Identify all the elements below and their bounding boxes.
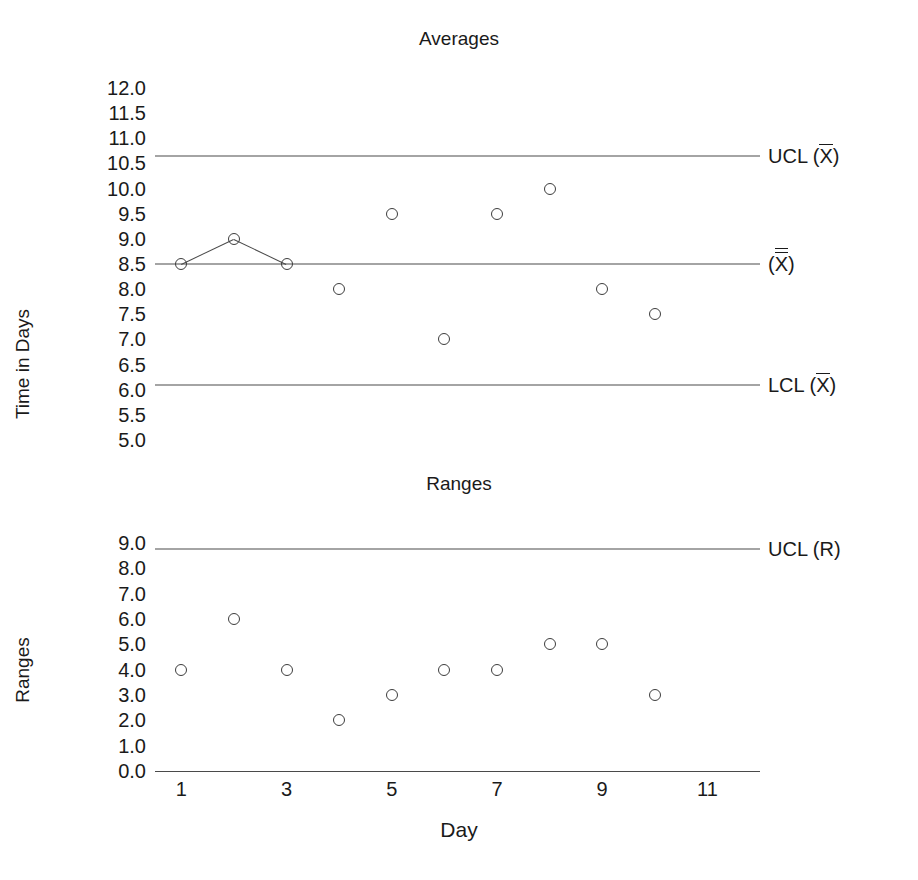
- x-axis-tick-label: 11: [697, 779, 718, 799]
- y-axis-tick-label: 7.5: [76, 304, 146, 324]
- y-axis-tick-label: 8.5: [76, 254, 146, 274]
- y-axis-tick-label: 6.0: [76, 609, 146, 629]
- x-axis-tick-label: 3: [281, 779, 292, 799]
- overbar-symbol: X: [775, 254, 788, 274]
- control-limit-line: [155, 384, 760, 385]
- y-axis-tick-label: 7.0: [76, 329, 146, 349]
- y-axis-tick-label: 1.0: [76, 736, 146, 756]
- y-axis-tick-label: 6.5: [76, 355, 146, 375]
- y-axis-tick-label: 5.5: [76, 405, 146, 425]
- y-axis-tick-label: 4.0: [76, 660, 146, 680]
- y-axis-tick-label: 10.5: [76, 153, 146, 173]
- y-axis-tick-label: 8.0: [76, 558, 146, 578]
- y-axis-tick-label: 12.0: [76, 78, 146, 98]
- y-axis-tick-label: 8.0: [76, 279, 146, 299]
- y-axis-tick-label: 6.0: [76, 380, 146, 400]
- averages-chart-title: Averages: [0, 28, 918, 50]
- data-point-marker[interactable]: [649, 308, 661, 320]
- x-axis-tick-label: 9: [597, 779, 608, 799]
- data-point-marker[interactable]: [544, 638, 556, 650]
- data-point-marker[interactable]: [438, 333, 450, 345]
- data-point-marker[interactable]: [649, 689, 661, 701]
- y-axis-tick-label: 2.0: [76, 710, 146, 730]
- x-axis-tick-label: 5: [386, 779, 397, 799]
- y-axis-tick-label: 3.0: [76, 685, 146, 705]
- control-chart-figure: Averages Time in Days 5.05.56.06.57.07.5…: [0, 0, 918, 880]
- data-connector-line: [181, 239, 234, 265]
- averages-y-axis-title: Time in Days: [11, 284, 35, 444]
- data-point-marker[interactable]: [333, 283, 345, 295]
- ranges-chart-title: Ranges: [0, 473, 918, 495]
- data-point-marker[interactable]: [596, 638, 608, 650]
- y-axis-tick-label: 11.5: [76, 103, 146, 123]
- data-point-marker[interactable]: [175, 258, 187, 270]
- control-limit-label: UCL (R): [768, 539, 841, 559]
- control-limit-line: [155, 264, 760, 265]
- averages-plot-area: 5.05.56.06.57.07.58.08.59.09.510.010.511…: [155, 88, 760, 440]
- y-axis-tick-label: 9.0: [76, 229, 146, 249]
- control-limit-label: (X): [768, 254, 795, 274]
- data-point-marker[interactable]: [228, 613, 240, 625]
- y-axis-tick-label: 9.5: [76, 204, 146, 224]
- data-point-marker[interactable]: [544, 183, 556, 195]
- data-point-marker[interactable]: [175, 664, 187, 676]
- y-axis-tick-label: 10.0: [76, 179, 146, 199]
- data-connector-line: [233, 239, 286, 265]
- data-point-marker[interactable]: [386, 689, 398, 701]
- x-axis-tick-label: 1: [176, 779, 187, 799]
- control-limit-line: [155, 155, 760, 156]
- data-point-marker[interactable]: [386, 208, 398, 220]
- y-axis-tick-label: 9.0: [76, 533, 146, 553]
- x-axis-line: [155, 771, 760, 772]
- y-axis-tick-label: 11.0: [76, 128, 146, 148]
- data-point-marker[interactable]: [281, 664, 293, 676]
- data-point-marker[interactable]: [438, 664, 450, 676]
- control-limit-label: LCL (X): [768, 375, 836, 395]
- data-point-marker[interactable]: [491, 208, 503, 220]
- data-point-marker[interactable]: [333, 714, 345, 726]
- control-limit-label: UCL (X): [768, 146, 840, 166]
- ranges-y-axis-title: Ranges: [11, 620, 35, 720]
- control-limit-line: [155, 549, 760, 550]
- y-axis-tick-label: 7.0: [76, 584, 146, 604]
- x-axis-tick-label: 7: [491, 779, 502, 799]
- y-axis-tick-label: 5.0: [76, 430, 146, 450]
- data-point-marker[interactable]: [596, 283, 608, 295]
- data-point-marker[interactable]: [228, 233, 240, 245]
- y-axis-tick-label: 0.0: [76, 761, 146, 781]
- overbar-symbol: X: [816, 375, 829, 395]
- data-point-marker[interactable]: [491, 664, 503, 676]
- x-axis-title: Day: [0, 818, 918, 842]
- overbar-symbol: X: [819, 146, 832, 166]
- ranges-plot-area: 0.01.02.03.04.05.06.07.08.09.0UCL (R)135…: [155, 543, 760, 771]
- data-point-marker[interactable]: [281, 258, 293, 270]
- y-axis-tick-label: 5.0: [76, 634, 146, 654]
